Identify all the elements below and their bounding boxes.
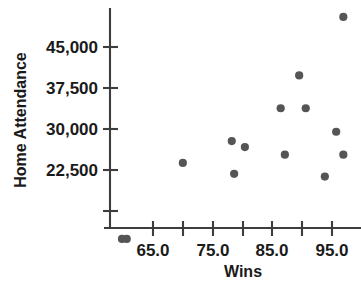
data-point xyxy=(230,170,238,178)
y-tick-label-37500: 37,500 xyxy=(46,79,98,98)
data-point xyxy=(339,13,347,21)
data-point xyxy=(228,137,236,145)
data-point xyxy=(321,172,329,180)
data-point xyxy=(332,128,340,136)
x-tick-label-65: 65.0 xyxy=(136,241,169,260)
plot-area: 45,000 37,500 30,000 22,500 65.0 75.0 85… xyxy=(0,0,361,281)
data-point xyxy=(179,159,187,167)
x-axis-title: Wins xyxy=(224,263,262,280)
y-tick-label-30000: 30,000 xyxy=(46,120,98,139)
x-tick-label-85: 85.0 xyxy=(255,241,288,260)
y-axis-title: Home Attendance xyxy=(12,52,29,188)
data-point xyxy=(339,151,347,159)
data-point xyxy=(302,104,310,112)
y-tick-label-45000: 45,000 xyxy=(46,38,98,57)
data-point xyxy=(241,143,249,151)
data-point xyxy=(295,71,303,79)
data-point xyxy=(277,104,285,112)
data-point xyxy=(123,235,131,243)
x-tick-label-75: 75.0 xyxy=(196,241,229,260)
y-tick-label-22500: 22,500 xyxy=(46,161,98,180)
x-tick-label-95: 95.0 xyxy=(315,241,348,260)
data-point xyxy=(281,151,289,159)
scatter-chart: 45,000 37,500 30,000 22,500 65.0 75.0 85… xyxy=(0,0,361,281)
data-points-group xyxy=(118,13,348,243)
